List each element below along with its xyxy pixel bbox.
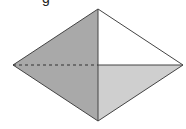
pyramid-diagram (0, 0, 186, 129)
